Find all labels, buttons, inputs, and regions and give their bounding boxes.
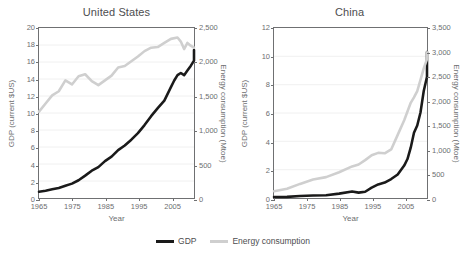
y-tick-label-left: 18 bbox=[27, 41, 35, 49]
y-tick-mark-right bbox=[427, 102, 430, 103]
y-tick-mark-right bbox=[427, 53, 430, 54]
y-tick-label-left: 6 bbox=[31, 145, 35, 153]
y-tick-label-left: 10 bbox=[27, 110, 35, 118]
y-axis-title-right-china-text: Energy consumption (Mtoe) bbox=[452, 64, 461, 162]
chart-panels: United States GDP (current $US) Energy c… bbox=[0, 0, 466, 230]
y-tick-label-left: 8 bbox=[266, 82, 270, 90]
y-tick-mark-left bbox=[36, 183, 39, 184]
y-tick-label-right: 2,000 bbox=[432, 98, 451, 106]
y-tick-label-right: 0 bbox=[432, 196, 436, 204]
y-tick-mark-right bbox=[427, 126, 430, 127]
panel-title-united-states: United States bbox=[0, 6, 233, 18]
y-tick-label-left: 4 bbox=[31, 162, 35, 170]
y-tick-label-right: 0 bbox=[199, 196, 203, 204]
y-tick-mark-left bbox=[271, 28, 274, 29]
x-tick-label: 1995 bbox=[365, 203, 382, 211]
x-tick-label: 1985 bbox=[97, 203, 114, 211]
y-tick-mark-left bbox=[271, 143, 274, 144]
x-tick-label: 1975 bbox=[299, 203, 316, 211]
y-axis-title-left-china-text: GDP (current $US) bbox=[241, 79, 250, 146]
y-tick-label-right: 500 bbox=[432, 172, 445, 180]
figure: United States GDP (current $US) Energy c… bbox=[0, 0, 466, 255]
y-tick-label-right: 1,500 bbox=[199, 93, 218, 101]
chart-legend: GDPEnergy consumption bbox=[0, 231, 466, 251]
x-tick-mark bbox=[373, 198, 374, 201]
y-tick-label-right: 1,000 bbox=[432, 147, 451, 155]
y-tick-label-left: 10 bbox=[262, 53, 270, 61]
y-tick-mark-left bbox=[36, 166, 39, 167]
x-tick-mark bbox=[139, 198, 140, 201]
legend-entry: GDP bbox=[156, 236, 196, 246]
y-axis-title-right-us: Energy consumption (Mtoe) bbox=[217, 27, 229, 199]
x-tick-label: 1965 bbox=[266, 203, 283, 211]
y-tick-label-right: 1,000 bbox=[199, 127, 218, 135]
y-axis-title-left-us-text: GDP (current $US) bbox=[8, 79, 17, 146]
y-axis-title-right-us-text: Energy consumption (Mtoe) bbox=[219, 64, 228, 162]
y-axis-title-left-us: GDP (current $US) bbox=[6, 27, 18, 199]
y-tick-label-left: 2 bbox=[266, 168, 270, 176]
y-tick-label-left: 4 bbox=[266, 139, 270, 147]
legend-label: Energy consumption bbox=[232, 236, 310, 246]
x-tick-mark bbox=[307, 198, 308, 201]
y-tick-label-right: 1,500 bbox=[432, 123, 451, 131]
y-tick-mark-right bbox=[427, 151, 430, 152]
y-tick-mark-right bbox=[427, 175, 430, 176]
y-tick-mark-right bbox=[194, 62, 197, 63]
y-tick-mark-right bbox=[194, 131, 197, 132]
legend-label: GDP bbox=[178, 236, 196, 246]
y-tick-mark-left bbox=[36, 45, 39, 46]
x-tick-mark bbox=[72, 198, 73, 201]
x-axis-title-us: Year bbox=[39, 214, 194, 223]
x-tick-label: 1965 bbox=[31, 203, 48, 211]
y-axis-title-right-china: Energy consumption (Mtoe) bbox=[450, 27, 462, 199]
y-tick-label-right: 3,000 bbox=[432, 49, 451, 57]
y-tick-label-left: 20 bbox=[27, 24, 35, 32]
y-tick-mark-left bbox=[271, 114, 274, 115]
y-tick-mark-right bbox=[194, 28, 197, 29]
y-tick-label-right: 3,500 bbox=[432, 24, 451, 32]
x-tick-label: 1985 bbox=[332, 203, 349, 211]
chart-panel-united-states: United States GDP (current $US) Energy c… bbox=[0, 0, 233, 230]
y-axis-title-left-china: GDP (current $US) bbox=[239, 27, 251, 199]
y-tick-mark-left bbox=[271, 85, 274, 86]
x-tick-mark bbox=[406, 198, 407, 201]
y-tick-label-left: 6 bbox=[266, 110, 270, 118]
legend-swatch bbox=[156, 240, 174, 243]
x-tick-label: 1975 bbox=[64, 203, 81, 211]
x-tick-mark bbox=[173, 198, 174, 201]
y-tick-label-left: 16 bbox=[27, 59, 35, 67]
plot-area-china: 02468101205001,0001,5002,0002,5003,0003,… bbox=[273, 27, 428, 199]
y-tick-mark-left bbox=[36, 80, 39, 81]
y-tick-mark-right bbox=[427, 200, 430, 201]
x-tick-label: 1995 bbox=[131, 203, 148, 211]
y-tick-mark-left bbox=[36, 148, 39, 149]
legend-entry: Energy consumption bbox=[210, 236, 310, 246]
plot-area-united-states: 0246810121416182005001,0001,5002,0002,50… bbox=[38, 27, 195, 199]
y-tick-mark-right bbox=[194, 97, 197, 98]
y-tick-mark-left bbox=[36, 114, 39, 115]
y-tick-mark-right bbox=[194, 200, 197, 201]
y-tick-label-right: 500 bbox=[199, 162, 212, 170]
x-tick-label: 2005 bbox=[398, 203, 415, 211]
data-lines-us bbox=[39, 28, 194, 198]
y-tick-mark-left bbox=[271, 171, 274, 172]
y-tick-label-left: 14 bbox=[27, 76, 35, 84]
x-tick-label: 2005 bbox=[164, 203, 181, 211]
x-tick-mark bbox=[274, 198, 275, 201]
y-tick-mark-left bbox=[36, 97, 39, 98]
y-tick-label-right: 2,500 bbox=[432, 73, 451, 81]
panel-title-china: China bbox=[233, 6, 466, 18]
chart-panel-china: China GDP (current $US) Energy consumpti… bbox=[233, 0, 466, 230]
y-tick-label-left: 8 bbox=[31, 127, 35, 135]
y-tick-mark-left bbox=[271, 57, 274, 58]
y-tick-mark-right bbox=[194, 166, 197, 167]
y-tick-label-right: 2,500 bbox=[199, 24, 218, 32]
y-tick-label-left: 12 bbox=[262, 24, 270, 32]
y-tick-label-left: 2 bbox=[31, 179, 35, 187]
y-tick-mark-right bbox=[427, 77, 430, 78]
x-tick-mark bbox=[340, 198, 341, 201]
y-tick-mark-left bbox=[36, 131, 39, 132]
data-lines-china bbox=[274, 28, 427, 198]
x-tick-mark bbox=[39, 198, 40, 201]
y-tick-mark-left bbox=[36, 62, 39, 63]
